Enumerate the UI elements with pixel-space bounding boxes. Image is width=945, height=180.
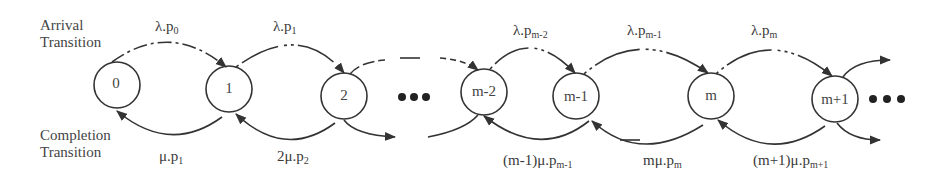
- arrival-arc-m2-in: [440, 58, 478, 70]
- completion-arc-m1-m: [718, 120, 825, 144]
- completion-arc-in-m2: [428, 115, 478, 137]
- arrival-transition-label: Arrival Transition: [40, 17, 101, 51]
- arrival-rate-label-m-2: λ.pm-2: [513, 22, 548, 43]
- node-label-0: 0: [112, 75, 120, 92]
- arrival-arc-1-2: [236, 45, 344, 73]
- markov-chain-diagram: Arrival Transition Completion Transition…: [0, 0, 945, 180]
- completion-arc-2-out: [344, 120, 395, 137]
- completion-label-line1: Completion: [40, 127, 111, 144]
- completion-rate-label-m: mμ.pm: [643, 152, 682, 173]
- arrival-arc-0-1: [112, 42, 226, 67]
- completion-label-line2: Transition: [40, 144, 111, 161]
- node-label-1: 1: [225, 80, 233, 97]
- node-label-m-1: m-1: [564, 88, 588, 105]
- node-label-m: m: [705, 87, 717, 104]
- arrival-label-line1: Arrival: [40, 17, 101, 34]
- completion-arc-1-0: [117, 111, 222, 135]
- completion-transition-label: Completion Transition: [40, 127, 111, 161]
- node-label-m-2: m-2: [472, 83, 496, 100]
- arrival-arc-m1-out: [843, 60, 890, 77]
- node-label-m+1: m+1: [821, 91, 849, 108]
- arrival-rate-label-m-1: λ.pm-1: [627, 22, 662, 43]
- completion-rate-label-m+1: (m+1)μ.pm+1: [753, 152, 828, 173]
- completion-rate-label-m-1: (m-1)μ.pm-1: [503, 152, 573, 173]
- arrival-label-line2: Transition: [40, 34, 101, 51]
- completion-arc-m1-out: [837, 123, 880, 140]
- arrival-rate-label-0: λ.p0: [155, 18, 179, 39]
- arrival-arc-m2-m1: [490, 48, 575, 73]
- completion-rate-label-2: 2μ.p2: [277, 148, 309, 169]
- completion-arc-m-m1: [592, 121, 703, 144]
- node-label-2: 2: [340, 87, 348, 104]
- arrival-arc-m1-m: [584, 49, 708, 74]
- completion-rate-label-1: μ.p1: [159, 148, 183, 169]
- arrival-arc-m-m1: [716, 50, 832, 76]
- arrival-arc-2-out: [350, 60, 385, 74]
- completion-arc-2-1: [236, 114, 335, 139]
- arrival-rate-label-1: λ.p1: [273, 18, 297, 39]
- arrival-rate-label-m: λ.pm: [751, 22, 777, 43]
